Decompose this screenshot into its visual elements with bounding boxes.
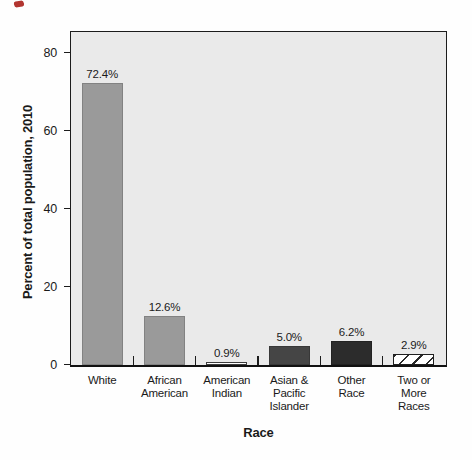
bar-chart-figure: Percent of total population, 2010 020406… <box>0 0 472 460</box>
category-label-asian-pacific-islander: Asian & Pacific Islander <box>258 374 320 413</box>
value-label: 12.6% <box>149 301 181 313</box>
bar-two-or-more-races <box>393 354 434 365</box>
category-label-other-race: Other Race <box>320 374 382 413</box>
category-label-african-american: African American <box>133 374 195 413</box>
plot-area: 72.4%12.6%0.9%5.0%6.2%2.9% <box>70 31 447 367</box>
y-tick-label: 0 <box>50 357 57 373</box>
category-boundary-tick <box>320 356 322 365</box>
y-axis: 020406080 <box>0 31 70 367</box>
category-labels: WhiteAfrican AmericanAmerican IndianAsia… <box>71 374 445 413</box>
y-tick-label: 60 <box>43 123 57 139</box>
category-boundary-tick <box>382 356 384 365</box>
bar-white <box>82 83 123 365</box>
y-tick-label: 80 <box>43 45 57 61</box>
category-boundary-tick <box>257 356 259 365</box>
value-label: 2.9% <box>401 339 426 351</box>
bar-african-american <box>144 316 185 365</box>
y-tick-label: 20 <box>43 279 57 295</box>
bar-other-race <box>331 341 372 365</box>
category-boundary-tick <box>195 356 197 365</box>
category-label-two-or-more-races: Two or More Races <box>383 374 445 413</box>
x-axis-title: Race <box>70 425 447 440</box>
value-label: 6.2% <box>339 326 364 338</box>
value-label: 5.0% <box>276 331 301 343</box>
bar-asian-pacific-islander <box>269 346 310 366</box>
y-tick-label: 40 <box>43 201 57 217</box>
value-label: 0.9% <box>214 347 239 359</box>
category-label-american-indian: American Indian <box>196 374 258 413</box>
red-ink-mark <box>14 0 25 8</box>
category-boundary-tick <box>133 356 135 365</box>
bar-american-indian <box>206 362 247 366</box>
value-label: 72.4% <box>86 68 118 80</box>
category-label-white: White <box>71 374 133 413</box>
